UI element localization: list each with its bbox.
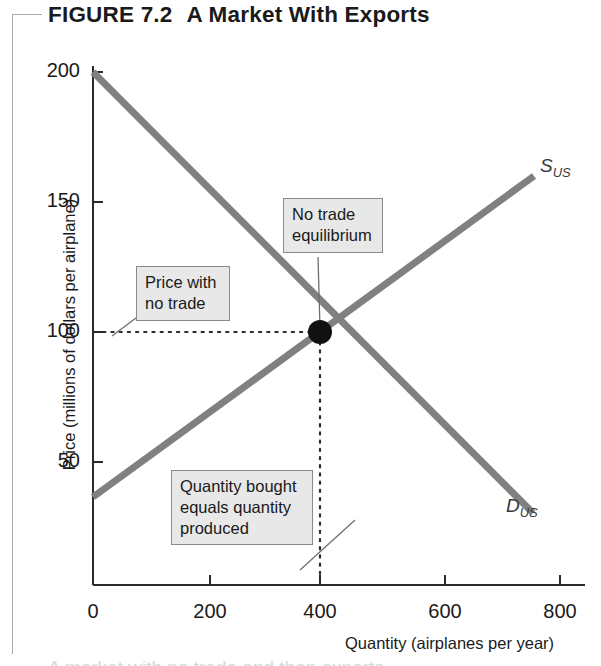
demand-curve-label: DUS bbox=[506, 495, 538, 520]
supply-letter: S bbox=[540, 155, 553, 176]
x-tick-label-200: 200 bbox=[180, 600, 240, 623]
demand-subscript: US bbox=[520, 505, 538, 520]
callout-price-with-no-trade: Price with no trade bbox=[136, 266, 230, 321]
leader-price-with-no-trade bbox=[112, 318, 136, 336]
chart-canvas bbox=[0, 0, 601, 666]
bottom-caption-cutoff: A market with no trade and then exports bbox=[48, 657, 384, 666]
supply-subscript: US bbox=[553, 165, 571, 180]
equilibrium-point bbox=[308, 320, 332, 344]
y-tick-label-150: 150 bbox=[20, 189, 80, 212]
x-tick-label-600: 600 bbox=[415, 600, 475, 623]
x-tick-label-400: 400 bbox=[290, 600, 350, 623]
x-axis-label: Quantity (airplanes per year) bbox=[345, 634, 554, 653]
x-tick-label-0: 0 bbox=[63, 600, 123, 623]
x-tick-label-800: 800 bbox=[530, 600, 590, 623]
callout-quantity-bought: Quantity bought equals quantity produced bbox=[171, 470, 313, 545]
y-tick-label-100: 100 bbox=[20, 319, 80, 342]
figure-container: FIGURE 7.2A Market With Exports Price (m… bbox=[0, 0, 601, 666]
demand-letter: D bbox=[506, 495, 520, 516]
supply-curve-label: SUS bbox=[540, 155, 571, 180]
y-tick-label-50: 50 bbox=[20, 449, 80, 472]
y-tick-label-200: 200 bbox=[20, 59, 80, 82]
callout-no-trade-equilibrium: No trade equilibrium bbox=[283, 198, 383, 253]
leader-no-trade-equilibrium bbox=[318, 257, 320, 328]
